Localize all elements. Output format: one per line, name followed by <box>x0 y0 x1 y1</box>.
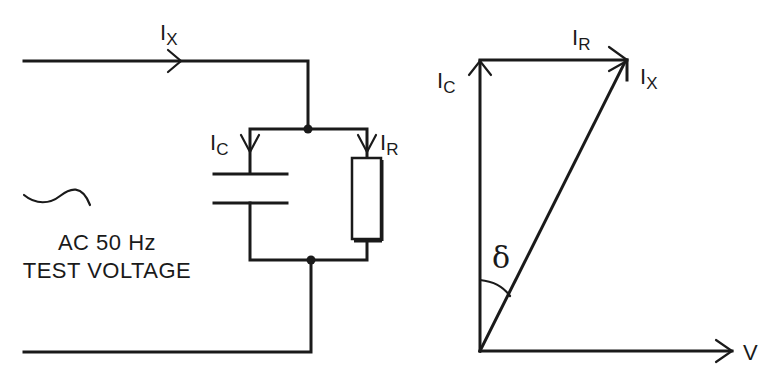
resistor <box>352 158 381 239</box>
diagram-canvas <box>0 0 773 380</box>
top-branch-wire <box>250 129 367 172</box>
ic-label: IC <box>210 130 228 160</box>
delta-angle-arc <box>480 280 510 296</box>
ir-label: IR <box>380 130 398 160</box>
source-caption-line1: AC 50 Hz <box>22 229 192 257</box>
source-caption: AC 50 Hz TEST VOLTAGE <box>22 229 192 285</box>
phasor-ic-label: IC <box>437 68 455 98</box>
top-wire <box>24 61 308 129</box>
top-junction-dot <box>304 125 313 134</box>
bottom-branch-wire <box>250 203 367 260</box>
phasor-ix-label: IX <box>640 64 657 94</box>
sine-wave-icon <box>24 190 90 205</box>
ir-phasor-arrowhead-icon <box>609 47 627 60</box>
phasor-diagram <box>469 47 732 362</box>
ix-label: IX <box>160 20 177 50</box>
delta-angle-label: δ <box>492 240 510 275</box>
phasor-v-label: V <box>743 340 758 366</box>
phasor-ir-label: IR <box>572 25 590 55</box>
circuit-schematic <box>24 50 382 352</box>
ix-phasor <box>480 62 625 351</box>
source-caption-line2: TEST VOLTAGE <box>22 257 192 285</box>
